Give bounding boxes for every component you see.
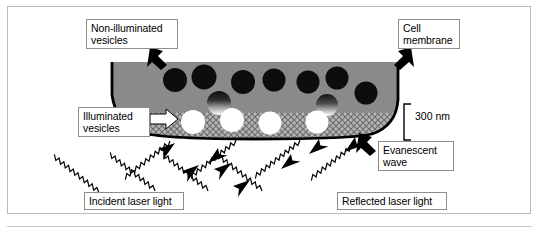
label-reflected-laser-light: Reflected laser light	[337, 192, 447, 210]
incident-arrowhead-group	[158, 143, 250, 197]
vesicle-dark	[355, 82, 378, 105]
vesicle-dark	[297, 71, 320, 94]
arrow-to-cell-membrane-icon	[394, 47, 414, 70]
vesicle-dark	[263, 69, 286, 92]
vesicle-dark	[192, 65, 217, 90]
label-incident-laser-light: Incident laser light	[84, 192, 184, 210]
incident-beam	[52, 154, 101, 193]
figure-root: Non-illuminated vesicles Cell membrane I…	[0, 0, 539, 233]
vesicle-illuminated	[181, 110, 205, 134]
incident-beam-group	[52, 152, 264, 193]
vesicle-dark	[326, 67, 349, 90]
reflected-arrowhead-group	[208, 136, 366, 174]
reflected-beam-group	[123, 139, 358, 180]
vesicle-illuminated	[220, 108, 244, 132]
reflected-beam	[253, 139, 302, 178]
reflected-arrowhead	[309, 138, 330, 159]
vesicle-illuminated	[259, 112, 282, 135]
figure-bottom-rule	[7, 226, 532, 227]
label-evanescent-wave: Evanescent wave	[378, 141, 454, 171]
label-non-illuminated-vesicles: Non-illuminated vesicles	[86, 19, 178, 49]
reflected-beam	[123, 140, 172, 179]
cell-body-group	[112, 62, 402, 140]
label-cell-membrane: Cell membrane	[398, 19, 460, 49]
vesicle-illuminated	[306, 111, 329, 134]
scale-bracket-300nm	[404, 104, 411, 140]
incident-arrowhead	[233, 180, 250, 197]
label-illuminated-vesicles: Illuminated vesicles	[78, 107, 150, 137]
vesicle-dark	[231, 70, 255, 94]
label-scale-300nm: 300 nm	[415, 110, 450, 122]
incident-arrowhead	[214, 163, 231, 180]
vesicle-dark	[163, 68, 187, 92]
